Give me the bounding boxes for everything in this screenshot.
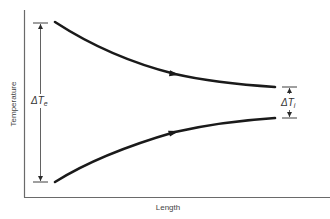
lower-curve: [55, 118, 275, 182]
x-axis-label: Length: [156, 203, 180, 212]
upper-curve-path: [55, 22, 275, 87]
right-dimension-subscript: i: [294, 102, 296, 109]
y-axis-label: Temperature: [9, 81, 18, 126]
lower-curve-arrow-icon: [168, 131, 179, 137]
left-dimension-label: ΔTe: [30, 95, 48, 107]
right-dimension: ΔTi: [280, 87, 297, 118]
right-dimension-symbol: ΔT: [280, 97, 295, 108]
lower-curve-path: [55, 118, 275, 182]
left-dimension: ΔTe: [30, 23, 48, 182]
upper-curve: [55, 22, 275, 87]
temperature-length-diagram: ΔTe ΔTi Temperature Length: [0, 0, 330, 219]
right-dimension-label: ΔTi: [280, 97, 296, 109]
left-dimension-subscript: e: [44, 100, 48, 107]
left-dimension-symbol: ΔT: [30, 95, 45, 106]
